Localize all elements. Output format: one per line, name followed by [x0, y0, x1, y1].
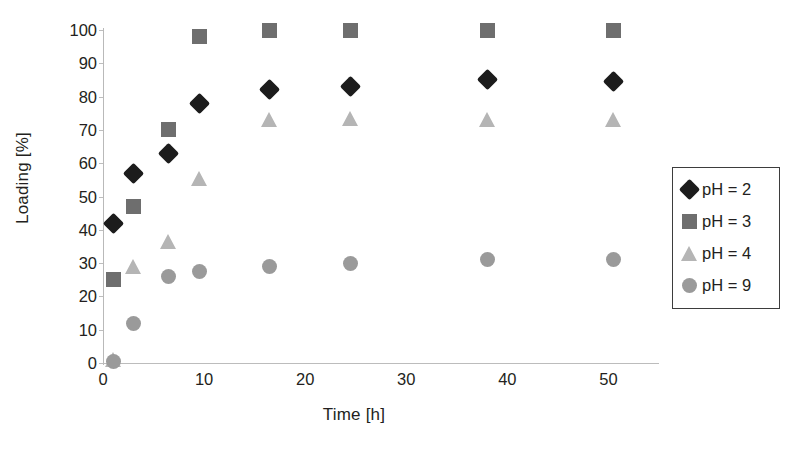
legend-label: pH = 2 [702, 181, 751, 198]
legend-item-ph4: pH = 4 [681, 241, 751, 265]
chart-legend: pH = 2pH = 3pH = 4pH = 9 [672, 167, 780, 309]
y-tick-label: 60 [51, 155, 97, 172]
x-axis-line [103, 363, 659, 364]
y-tick-label: 80 [51, 89, 97, 106]
x-tick-label: 20 [277, 371, 333, 388]
y-tick-label: 70 [51, 122, 97, 139]
x-axis-title: Time [h] [294, 405, 414, 425]
y-tick-label: 30 [51, 255, 97, 272]
diamond-icon [681, 181, 698, 198]
plot-area [103, 30, 659, 363]
x-tick-label: 0 [75, 371, 131, 388]
y-tick-label: 10 [51, 322, 97, 339]
circle-icon-glyph [682, 278, 697, 293]
x-tick-label: 10 [176, 371, 232, 388]
x-tick-label: 30 [378, 371, 434, 388]
y-tick-label: 0 [51, 355, 97, 372]
triangle-icon-glyph [681, 246, 697, 261]
square-icon [681, 213, 698, 230]
legend-label: pH = 3 [702, 213, 751, 230]
diamond-icon-glyph [679, 178, 700, 199]
y-tick-mark [99, 363, 103, 364]
x-tick-label: 50 [580, 371, 636, 388]
y-axis-title: Loading [%] [13, 118, 33, 238]
legend-item-ph9: pH = 9 [681, 273, 751, 297]
circle-icon [681, 277, 698, 294]
y-tick-label: 100 [51, 22, 97, 39]
scatter-chart: Loading [%] 0102030405060708090100 01020… [0, 0, 803, 451]
y-tick-label: 90 [51, 55, 97, 72]
legend-label: pH = 4 [702, 245, 751, 262]
x-tick-label: 40 [479, 371, 535, 388]
y-tick-label: 50 [51, 189, 97, 206]
square-icon-glyph [682, 214, 697, 229]
y-tick-label: 20 [51, 288, 97, 305]
y-tick-label: 40 [51, 222, 97, 239]
triangle-icon [681, 245, 698, 262]
legend-item-ph2: pH = 2 [681, 177, 751, 201]
legend-item-ph3: pH = 3 [681, 209, 751, 233]
legend-label: pH = 9 [702, 277, 751, 294]
